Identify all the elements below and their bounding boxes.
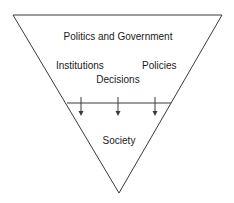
arrow-middle — [116, 97, 121, 116]
arrow-left — [79, 97, 84, 116]
arrow-right — [153, 97, 158, 116]
label-institutions: Institutions — [56, 60, 104, 71]
label-policies: Policies — [142, 60, 176, 71]
diagram-canvas: Politics and Government Institutions Dec… — [0, 0, 234, 203]
label-politics-and-government: Politics and Government — [64, 31, 173, 42]
label-decisions: Decisions — [96, 74, 139, 85]
label-society: Society — [103, 135, 136, 146]
